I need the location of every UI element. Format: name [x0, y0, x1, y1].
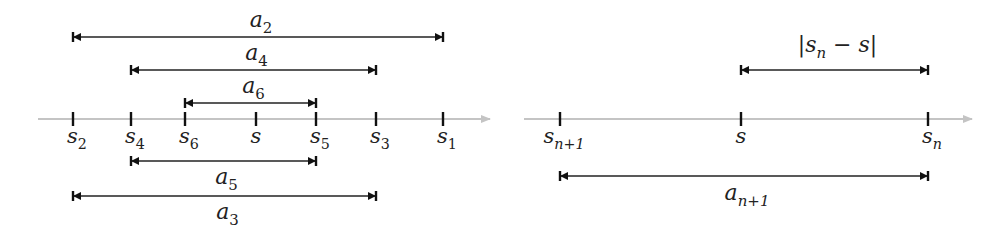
right-number-line-panel: sn+1ssn|sn − s|an+1	[524, 32, 972, 210]
span-a-6	[185, 98, 316, 108]
left-number-line-panel: s2s4s6ss5s3s1a2a4a6a5a3	[38, 7, 490, 227]
tick-s-label: s	[251, 124, 262, 148]
span-a-2-label: a2	[250, 7, 273, 37]
tick-s-6-label: s6	[179, 124, 199, 152]
tick-s-5-label: s5	[310, 124, 330, 152]
tick-s-n-label: sn	[922, 124, 942, 152]
tick-s-label: s	[736, 124, 747, 148]
span-a-nplus1	[560, 171, 928, 181]
span-abs-sn-minus-s	[741, 65, 928, 75]
tick-s-nplus1-label: sn+1	[544, 124, 585, 152]
span-a-4-label: a4	[245, 40, 268, 70]
span-abs-sn-minus-s-label: |sn − s|	[798, 32, 877, 62]
span-a-6-label: a6	[242, 73, 265, 103]
span-a-5-label: a5	[215, 164, 238, 194]
tick-s-2-label: s2	[67, 124, 87, 152]
tick-s-4-label: s4	[125, 124, 145, 152]
span-a-3-label: a3	[216, 199, 239, 227]
tick-s-3-label: s3	[370, 124, 390, 152]
tick-s-1-label: s1	[437, 124, 457, 152]
span-a-nplus1-label: an+1	[725, 180, 770, 210]
convergence-diagram: s2s4s6ss5s3s1a2a4a6a5a3 sn+1ssn|sn − s|a…	[0, 0, 1004, 227]
